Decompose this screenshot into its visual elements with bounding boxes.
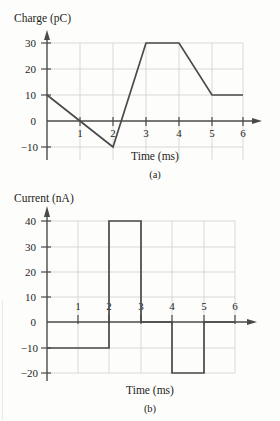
current-panel-label: (b) xyxy=(144,403,157,415)
current-y-tickmarks xyxy=(41,221,51,373)
charge-ytick-neg10: −10 xyxy=(21,141,39,153)
current-xtick-1: 1 xyxy=(75,300,81,312)
current-ytick-40: 40 xyxy=(25,215,37,227)
charge-xaxis-label: Time (ms) xyxy=(131,150,179,163)
current-ytick-20: 20 xyxy=(25,266,37,278)
charge-panel-label: (a) xyxy=(149,169,161,181)
current-xtick-6: 6 xyxy=(232,300,238,312)
charge-grid-vertical xyxy=(80,43,243,160)
charge-chart: Charge (pC) 30 20 10 0 −10 1 2 3 4 5 6 T… xyxy=(0,0,280,200)
current-ytick-30: 30 xyxy=(25,241,37,253)
figure-container: Charge (pC) 30 20 10 0 −10 1 2 3 4 5 6 T… xyxy=(0,0,280,421)
charge-ytick-20: 20 xyxy=(25,63,37,75)
charge-xtick-2: 2 xyxy=(110,127,116,139)
current-xtick-4: 4 xyxy=(169,300,175,312)
charge-xtick-3: 3 xyxy=(143,127,149,139)
charge-xtick-1: 1 xyxy=(77,127,83,139)
charge-ytick-0: 0 xyxy=(31,115,37,127)
charge-ytick-30: 30 xyxy=(25,37,37,49)
current-ytick-10: 10 xyxy=(25,291,37,303)
current-ytick-neg10: −10 xyxy=(21,342,39,354)
current-axis-title: Current (nA) xyxy=(14,192,74,205)
current-xtick-5: 5 xyxy=(201,300,207,312)
charge-xtick-4: 4 xyxy=(176,127,182,139)
current-y-axis xyxy=(44,206,50,381)
current-chart: Current (nA) 40 30 20 10 0 −10 −20 1 2 3… xyxy=(0,191,280,421)
charge-ytick-10: 10 xyxy=(25,89,37,101)
charge-y-tickmarks xyxy=(41,43,51,147)
current-xaxis-label: Time (ms) xyxy=(126,384,174,397)
charge-xtick-6: 6 xyxy=(240,127,246,139)
current-ytick-0: 0 xyxy=(31,316,37,328)
page-edge-artifact xyxy=(2,300,3,420)
charge-axis-title: Charge (pC) xyxy=(14,12,71,25)
charge-xtick-5: 5 xyxy=(209,127,215,139)
current-ytick-neg20: −20 xyxy=(21,367,39,379)
